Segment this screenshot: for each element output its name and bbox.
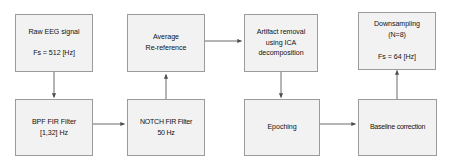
node-raw-eeg-signal-label: Raw EEG signal Fs = 512 [Hz] <box>27 27 82 60</box>
node-artifact-removal-ica-label: Artifact removal using ICA decomposition <box>255 27 307 60</box>
node-average-re-reference[interactable]: Average Re-reference <box>127 14 205 72</box>
node-downsampling[interactable]: Downsampling (N=8) Fs = 64 [Hz] <box>358 12 436 70</box>
node-epoching[interactable]: Epoching <box>244 99 320 156</box>
node-artifact-removal-ica[interactable]: Artifact removal using ICA decomposition <box>244 14 318 72</box>
node-notch-fir-filter[interactable]: NOTCH FIR Filter 50 Hz <box>127 99 205 156</box>
node-bpf-fir-filter[interactable]: BPF FIR Filter [1,32] Hz <box>15 99 93 156</box>
node-average-re-reference-label: Average Re-reference <box>144 32 189 54</box>
flowchart-canvas: Raw EEG signal Fs = 512 [Hz] BPF FIR Fil… <box>0 0 451 164</box>
node-baseline-correction[interactable]: Baseline correction <box>358 99 437 156</box>
node-downsampling-label: Downsampling (N=8) Fs = 64 [Hz] <box>372 19 422 63</box>
node-notch-fir-filter-label: NOTCH FIR Filter 50 Hz <box>138 117 194 139</box>
node-raw-eeg-signal[interactable]: Raw EEG signal Fs = 512 [Hz] <box>15 14 93 72</box>
node-bpf-fir-filter-label: BPF FIR Filter [1,32] Hz <box>30 117 78 139</box>
node-baseline-correction-label: Baseline correction <box>368 122 427 133</box>
node-epoching-label: Epoching <box>265 122 298 133</box>
